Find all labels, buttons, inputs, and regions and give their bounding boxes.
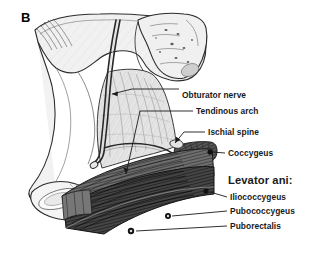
obturator-internus-muscle	[97, 69, 176, 168]
panel-letter-b: B	[21, 10, 30, 25]
label-iliococcygeus: Iliococcygeus	[230, 193, 286, 201]
label-ischial-spine: Ischial spine	[208, 128, 259, 136]
leader-iliococcygeus	[203, 188, 227, 197]
anatomy-figure-panel-b: B Obturator nerve Tendinous arch Ischial…	[0, 0, 323, 254]
label-puborectalis: Puborectalis	[230, 222, 281, 230]
leader-pubococcygeus	[165, 211, 227, 219]
label-pubococcygeus: Pubococcygeus	[230, 207, 295, 215]
label-tendinous-arch: Tendinous arch	[196, 107, 258, 115]
leader-puborectalis	[128, 226, 227, 234]
levator-ani-muscle	[62, 149, 214, 234]
label-levator-ani-heading: Levator ani:	[228, 175, 293, 186]
label-obturator-nerve: Obturator nerve	[182, 91, 246, 99]
label-coccygeus: Coccygeus	[228, 149, 273, 157]
